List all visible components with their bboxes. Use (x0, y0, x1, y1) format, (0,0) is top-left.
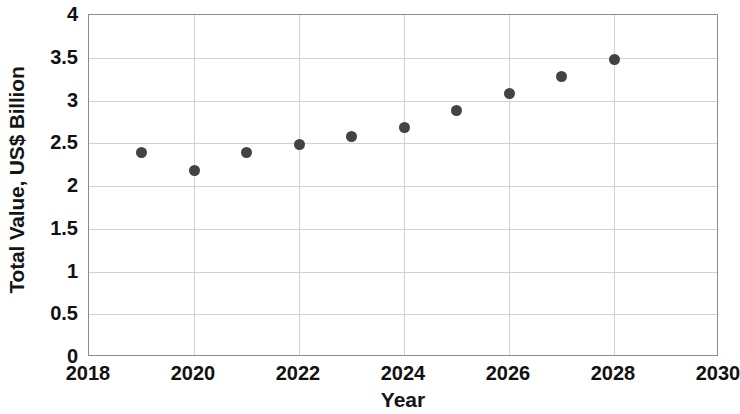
gridline-horizontal (89, 101, 717, 102)
gridline-horizontal (89, 272, 717, 273)
data-point (556, 71, 567, 82)
x-axis-tick-label: 2022 (276, 362, 321, 384)
y-axis-tick-label: 4 (67, 4, 78, 24)
data-point (136, 147, 147, 158)
x-axis-title: Year (88, 388, 718, 411)
y-axis-tick-label: 2 (67, 175, 78, 195)
data-point (609, 54, 620, 65)
gridline-horizontal (89, 314, 717, 315)
x-axis-tick-label: 2024 (381, 362, 426, 384)
gridline-vertical (194, 15, 195, 355)
gridline-vertical (509, 15, 510, 355)
data-point (451, 105, 462, 116)
y-axis-title: Total Value, US$ Billion (0, 0, 34, 360)
data-point (346, 131, 357, 142)
x-axis-tick-label: 2018 (66, 362, 111, 384)
gridline-horizontal (89, 143, 717, 144)
x-axis-tick-labels: 2018202020222024202620282030 (0, 362, 737, 390)
y-axis-tick-label: 0.5 (50, 303, 78, 323)
data-point (504, 88, 515, 99)
x-axis-tick-label: 2030 (696, 362, 740, 384)
gridline-horizontal (89, 186, 717, 187)
gridline-vertical (404, 15, 405, 355)
data-point (399, 122, 410, 133)
gridline-vertical (299, 15, 300, 355)
y-axis-tick-label: 3 (67, 90, 78, 110)
x-axis-tick-label: 2020 (171, 362, 216, 384)
gridline-horizontal (89, 229, 717, 230)
y-axis-tick-label: 2.5 (50, 132, 78, 152)
y-axis-tick-label: 1.5 (50, 218, 78, 238)
data-point (189, 165, 200, 176)
y-axis-tick-labels: 00.511.522.533.54 (34, 0, 82, 370)
data-point (241, 147, 252, 158)
x-axis-tick-label: 2026 (486, 362, 531, 384)
y-axis-tick-label: 3.5 (50, 47, 78, 67)
plot-area (88, 14, 718, 356)
gridline-vertical (614, 15, 615, 355)
data-point (294, 139, 305, 150)
y-axis-tick-label: 1 (67, 261, 78, 281)
y-axis-title-label: Total Value, US$ Billion (5, 66, 29, 293)
x-axis-tick-label: 2028 (591, 362, 636, 384)
gridline-horizontal (89, 58, 717, 59)
